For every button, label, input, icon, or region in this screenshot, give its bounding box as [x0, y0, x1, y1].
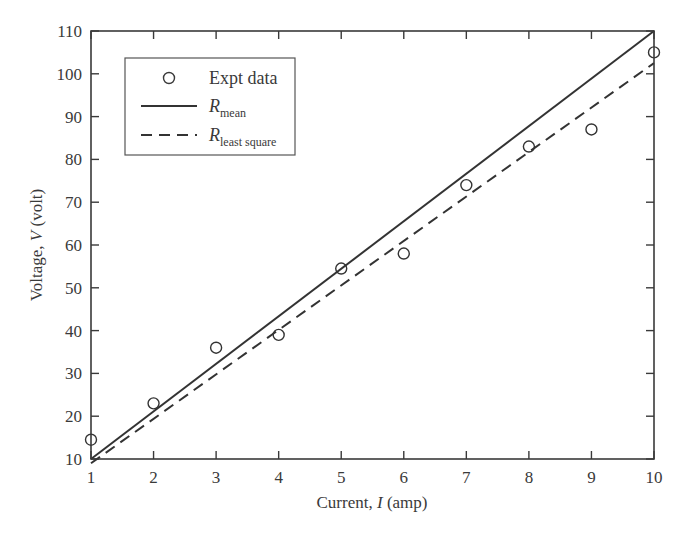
x-tick-label: 9 [587, 468, 596, 487]
data-point-circle-icon [523, 141, 534, 152]
y-tick-label: 80 [65, 150, 82, 169]
y-tick-label: 40 [65, 322, 82, 341]
x-tick-label: 6 [400, 468, 409, 487]
y-tick-label: 50 [65, 279, 82, 298]
x-tick-label: 7 [462, 468, 471, 487]
y-tick-label: 60 [65, 236, 82, 255]
x-axis-label: Current, I (amp) [317, 493, 428, 512]
x-tick-label: 10 [646, 468, 663, 487]
data-point-circle-icon [148, 398, 159, 409]
y-tick-label: 110 [57, 22, 82, 41]
x-tick-label: 1 [87, 468, 96, 487]
x-tick-label: 8 [525, 468, 534, 487]
legend: Expt data Rmean Rleast square [125, 58, 295, 155]
x-tick-label: 5 [337, 468, 346, 487]
data-point-circle-icon [461, 180, 472, 191]
data-point-circle-icon [273, 329, 284, 340]
data-point-circle-icon [586, 124, 597, 135]
y-tick-label: 70 [65, 193, 82, 212]
y-tick-label: 20 [65, 407, 82, 426]
x-tick-label: 4 [274, 468, 283, 487]
data-point-circle-icon [398, 248, 409, 259]
y-axis-label: Voltage, V (volt) [27, 189, 46, 302]
voltage-current-chart: 12345678910102030405060708090100110 Expt… [0, 0, 681, 535]
y-tick-label: 90 [65, 108, 82, 127]
y-tick-label: 10 [65, 450, 82, 469]
y-tick-label: 100 [57, 65, 83, 84]
data-point-circle-icon [211, 342, 222, 353]
x-tick-label: 3 [212, 468, 221, 487]
x-tick-label: 2 [149, 468, 158, 487]
legend-label-expt: Expt data [209, 68, 277, 88]
y-tick-label: 30 [65, 364, 82, 383]
